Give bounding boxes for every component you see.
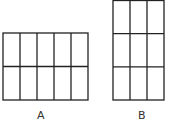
diagram-canvas [0,0,170,122]
figure-label-b: B [138,110,146,121]
grid-figure-a [3,33,88,100]
grid-figure-b [113,1,164,101]
figure-label-a: A [37,110,45,121]
